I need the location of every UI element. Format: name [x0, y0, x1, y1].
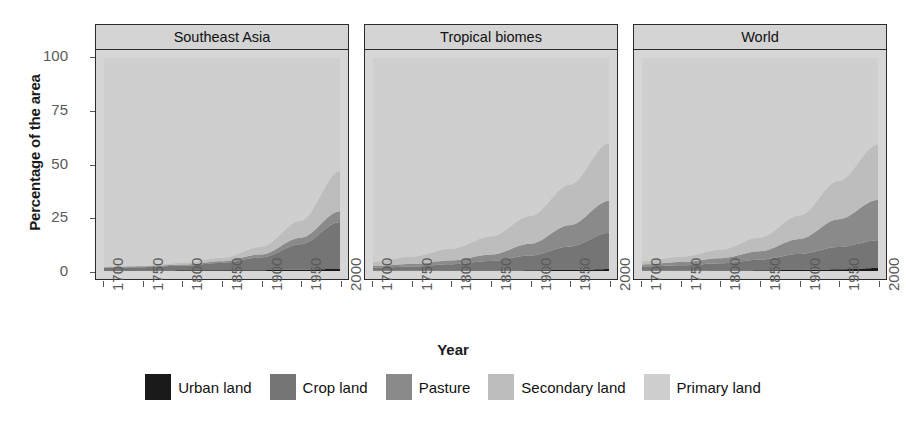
legend-swatch-icon	[644, 374, 670, 400]
x-tick-mark	[570, 281, 571, 287]
x-tick-mark	[491, 281, 492, 287]
y-tick-label-75: 75	[28, 101, 68, 118]
plot-area	[373, 58, 609, 271]
x-tick-label-1850: 1850	[228, 258, 245, 291]
x-tick-label-1950: 1950	[845, 258, 862, 291]
x-tick-mark	[681, 281, 682, 287]
facet-area-chart: Percentage of the area 1007550250 Southe…	[0, 0, 906, 426]
x-tick-label-1800: 1800	[726, 258, 743, 291]
x-tick-mark	[143, 281, 144, 287]
x-tick-mark	[372, 281, 373, 287]
legend-item-crop-land[interactable]: Crop land	[270, 374, 368, 400]
y-tick-label-25: 25	[28, 208, 68, 225]
x-tick-mark	[531, 281, 532, 287]
x-tick-mark	[341, 281, 342, 287]
legend-label: Pasture	[419, 379, 471, 396]
y-tick-label-50: 50	[28, 155, 68, 172]
x-tick-label-1700: 1700	[378, 258, 395, 291]
y-tick-label-100: 100	[28, 47, 68, 64]
legend-label: Secondary land	[521, 379, 625, 396]
x-tick-mark	[800, 281, 801, 287]
x-tick-mark	[760, 281, 761, 287]
legend-label: Crop land	[303, 379, 368, 396]
legend-swatch-icon	[488, 374, 514, 400]
x-tick-label-1850: 1850	[766, 258, 783, 291]
x-tick-mark	[301, 281, 302, 287]
x-tick-label-1700: 1700	[647, 258, 664, 291]
y-axis-ticks: 1007550250	[24, 0, 68, 426]
x-tick-mark	[182, 281, 183, 287]
x-tick-mark	[720, 281, 721, 287]
x-tick-mark	[412, 281, 413, 287]
legend-label: Primary land	[677, 379, 761, 396]
plot-area	[104, 58, 340, 271]
plot-area	[642, 58, 878, 271]
panel-strip-label: World	[634, 25, 886, 50]
x-tick-label-1950: 1950	[307, 258, 324, 291]
x-tick-label-1800: 1800	[457, 258, 474, 291]
panel-tropical-biomes: Tropical biomes	[364, 24, 618, 280]
x-tick-label-1900: 1900	[268, 258, 285, 291]
x-tick-mark	[641, 281, 642, 287]
legend-swatch-icon	[386, 374, 412, 400]
legend-swatch-icon	[145, 374, 171, 400]
legend-label: Urban land	[178, 379, 251, 396]
legend-item-urban-land[interactable]: Urban land	[145, 374, 251, 400]
x-tick-mark	[610, 281, 611, 287]
x-tick-mark	[879, 281, 880, 287]
x-tick-label-1750: 1750	[149, 258, 166, 291]
x-tick-label-1900: 1900	[806, 258, 823, 291]
legend-swatch-icon	[270, 374, 296, 400]
x-tick-mark	[451, 281, 452, 287]
x-tick-mark	[839, 281, 840, 287]
panel-strip-label: Tropical biomes	[365, 25, 617, 50]
panel-southeast-asia: Southeast Asia	[95, 24, 349, 280]
x-tick-label-1750: 1750	[687, 258, 704, 291]
legend: Urban landCrop landPastureSecondary land…	[0, 372, 906, 402]
x-tick-label-2000: 2000	[347, 258, 364, 291]
x-tick-label-1950: 1950	[576, 258, 593, 291]
x-tick-mark	[222, 281, 223, 287]
x-tick-label-1700: 1700	[109, 258, 126, 291]
y-tick-label-0: 0	[28, 262, 68, 279]
legend-item-pasture[interactable]: Pasture	[386, 374, 471, 400]
x-tick-label-2000: 2000	[616, 258, 633, 291]
x-axis-title: Year	[0, 341, 906, 358]
x-tick-label-1750: 1750	[418, 258, 435, 291]
x-tick-label-1900: 1900	[537, 258, 554, 291]
x-tick-mark	[262, 281, 263, 287]
legend-item-primary-land[interactable]: Primary land	[644, 374, 761, 400]
x-tick-mark	[103, 281, 104, 287]
panel-world: World	[633, 24, 887, 280]
x-tick-label-2000: 2000	[885, 258, 902, 291]
x-tick-label-1850: 1850	[497, 258, 514, 291]
panel-strip-label: Southeast Asia	[96, 25, 348, 50]
x-tick-label-1800: 1800	[188, 258, 205, 291]
legend-item-secondary-land[interactable]: Secondary land	[488, 374, 625, 400]
